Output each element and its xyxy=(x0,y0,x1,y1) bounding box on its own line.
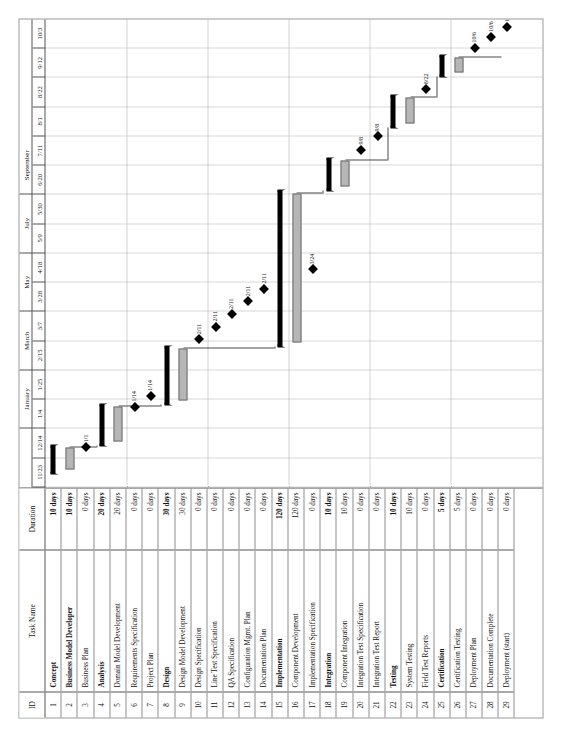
table-row[interactable]: 22Testing10 days xyxy=(385,489,401,718)
cell-duration: 10 days xyxy=(336,489,351,550)
task-bar[interactable] xyxy=(178,349,187,401)
milestone-marker[interactable] xyxy=(81,442,91,452)
timeline-date-tick: 5/30 xyxy=(32,195,45,224)
cell-id: 6 xyxy=(126,692,141,718)
milestone-label: 10/6 xyxy=(503,20,509,23)
dependency-link xyxy=(436,77,437,98)
table-row[interactable]: 28Documentation Complete0 days xyxy=(482,489,498,718)
milestone-label: 2/11 xyxy=(227,298,233,308)
summary-bar[interactable] xyxy=(326,158,331,190)
grid-vline xyxy=(45,370,542,371)
table-row[interactable]: 2Business Model Developer10 days xyxy=(61,489,77,718)
cell-id: 21 xyxy=(369,692,384,718)
timeline-date-tick: 4/18 xyxy=(32,254,45,283)
timeline-date-tick: 1/25 xyxy=(32,371,45,400)
milestone-label: 2/11 xyxy=(244,286,250,296)
cell-task-name: Implementation Specification xyxy=(304,550,319,692)
task-bar[interactable] xyxy=(405,98,414,124)
table-row[interactable]: 15Implementation120 days xyxy=(272,489,288,718)
milestone-marker[interactable] xyxy=(194,334,204,344)
grid-vline xyxy=(45,487,542,488)
table-row[interactable]: 24Field Test Reports0 days xyxy=(417,489,433,718)
table-row[interactable]: 20Integration Test Specification0 days xyxy=(353,489,369,718)
summary-bar[interactable] xyxy=(164,346,169,404)
table-row[interactable]: 23System Testing10 days xyxy=(401,489,417,718)
table-row[interactable]: 27Deployment Plan0 days xyxy=(466,489,482,718)
cell-duration: 0 days xyxy=(239,489,254,550)
dependency-link xyxy=(322,190,323,193)
milestone-marker[interactable] xyxy=(307,264,317,274)
grid-hline xyxy=(369,20,370,488)
grid-vline xyxy=(45,77,542,78)
summary-bar[interactable] xyxy=(277,190,282,346)
milestone-marker[interactable] xyxy=(421,84,431,94)
milestone-marker[interactable] xyxy=(486,32,496,42)
cell-task-name: Analysis xyxy=(94,550,109,692)
dependency-link xyxy=(345,159,388,160)
task-bar[interactable] xyxy=(113,407,122,442)
table-row[interactable]: 18Integration10 days xyxy=(320,489,336,718)
summary-bar[interactable] xyxy=(439,56,444,77)
cell-duration: 0 days xyxy=(369,489,384,550)
page-frame: ID Task Name Duration 1Concept10 days2Bu… xyxy=(0,0,561,737)
table-row[interactable]: 1Concept10 days xyxy=(45,489,61,718)
cell-id: 17 xyxy=(304,692,319,718)
cell-duration: 5 days xyxy=(434,489,449,550)
cell-id: 8 xyxy=(158,692,173,718)
table-row[interactable]: 17Implementation Specification0 days xyxy=(304,489,320,718)
table-row[interactable]: 6Requirements Specification0 days xyxy=(126,489,142,718)
cell-task-name: Integration Test Specification xyxy=(353,550,368,692)
task-bar[interactable] xyxy=(340,160,349,186)
cell-task-name: Project Plan xyxy=(142,550,157,692)
milestone-label: 9/8 xyxy=(357,137,363,145)
milestone-label: 1/14 xyxy=(146,380,152,391)
cell-duration: 120 days xyxy=(272,489,287,550)
summary-bar[interactable] xyxy=(390,95,395,127)
table-row[interactable]: 4Analysis20 days xyxy=(94,489,110,718)
milestone-marker[interactable] xyxy=(129,402,139,412)
table-row[interactable]: 26Certification Testing5 days xyxy=(450,489,466,718)
milestone-label: 2/11 xyxy=(211,311,217,321)
milestone-marker[interactable] xyxy=(243,296,253,306)
task-bar[interactable] xyxy=(65,447,74,469)
summary-bar[interactable] xyxy=(50,445,55,473)
table-row[interactable]: 10Design Specification0 days xyxy=(191,489,207,718)
cell-task-name: Field Test Reports xyxy=(417,550,432,692)
table-row[interactable]: 3Business Plan0 days xyxy=(77,489,93,718)
table-row[interactable]: 7Project Plan0 days xyxy=(142,489,158,718)
table-row[interactable]: 12QA Specification0 days xyxy=(223,489,239,718)
table-row[interactable]: 8Design30 days xyxy=(158,489,174,718)
table-row[interactable]: 14Documentation Plan0 days xyxy=(255,489,271,718)
timeline-date-tick: 6/20 xyxy=(32,166,45,195)
milestone-marker[interactable] xyxy=(372,132,382,142)
cell-duration: 0 days xyxy=(77,489,92,550)
cell-task-name: Design Model Development xyxy=(175,550,190,692)
table-row[interactable]: 11Line Test Specification0 days xyxy=(207,489,223,718)
milestone-marker[interactable] xyxy=(469,43,479,53)
task-bar[interactable] xyxy=(454,58,463,73)
table-row[interactable]: 16Component Development120 days xyxy=(288,489,304,718)
table-row[interactable]: 29Deployment (start)0 days xyxy=(498,489,514,718)
milestone-marker[interactable] xyxy=(259,284,269,294)
table-row[interactable]: 13Configuration Mgmt. Plan0 days xyxy=(239,489,255,718)
cell-task-name: Requirements Specification xyxy=(126,550,141,692)
milestone-marker[interactable] xyxy=(210,322,220,332)
table-row[interactable]: 19Component Integration10 days xyxy=(336,489,352,718)
table-row[interactable]: 21Integration Test Report0 days xyxy=(369,489,385,718)
cell-task-name: System Testing xyxy=(401,550,416,692)
cell-task-name: Business Plan xyxy=(77,550,92,692)
table-row[interactable]: 9Design Model Development30 days xyxy=(175,489,191,718)
task-bar[interactable] xyxy=(292,193,301,342)
grid-vline xyxy=(45,106,542,107)
milestone-marker[interactable] xyxy=(502,22,512,32)
table-row[interactable]: 5Domain Model Development20 days xyxy=(110,489,126,718)
cell-duration: 0 days xyxy=(142,489,157,550)
dependency-link xyxy=(387,127,388,160)
table-row[interactable]: 25Certification5 days xyxy=(434,489,450,718)
cell-task-name: Certification xyxy=(434,550,449,692)
cell-id: 14 xyxy=(255,692,270,718)
cell-task-name: Documentation Plan xyxy=(255,550,270,692)
cell-duration: 5 days xyxy=(450,489,465,550)
milestone-marker[interactable] xyxy=(356,145,366,155)
summary-bar[interactable] xyxy=(99,404,104,445)
